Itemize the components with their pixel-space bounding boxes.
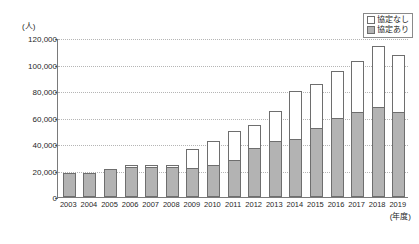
legend-item-none: 協定なし xyxy=(367,15,409,25)
legend-swatch-with-icon xyxy=(367,26,375,34)
plot-area xyxy=(57,39,408,198)
x-axis-tick-label: 2019 xyxy=(388,200,409,209)
bar-stack xyxy=(228,131,241,197)
bar-stack xyxy=(207,141,220,197)
bar-stack xyxy=(310,84,323,197)
bar-column xyxy=(121,38,142,197)
chart-title xyxy=(0,0,419,3)
bar-column xyxy=(286,38,307,197)
bar-stack xyxy=(63,173,76,197)
x-axis-tick-label: 2010 xyxy=(202,200,223,209)
bar-segment-with xyxy=(145,167,158,197)
bar-segment-none xyxy=(248,125,261,148)
y-axis-tick-label: 120,000 xyxy=(0,35,57,44)
bar-segment-with xyxy=(125,167,138,197)
bar-stack xyxy=(83,173,96,197)
bar-segment-with xyxy=(207,165,220,197)
x-axis-tick-label: 2018 xyxy=(367,200,388,209)
bar-segment-with xyxy=(372,107,385,197)
bar-segment-none xyxy=(392,55,405,112)
x-axis-tick-label: 2005 xyxy=(99,200,120,209)
bar-segment-with xyxy=(289,139,302,197)
bar-column xyxy=(224,38,245,197)
bar-stack xyxy=(351,61,364,197)
legend-label-with: 協定あり xyxy=(377,25,409,35)
bar-segment-with xyxy=(310,128,323,197)
chart-legend: 協定なし 協定あり xyxy=(363,13,413,38)
bar-column xyxy=(100,38,121,197)
bar-segment-with xyxy=(392,112,405,197)
bar-column xyxy=(389,38,410,197)
bar-stack xyxy=(331,71,344,197)
bar-stack xyxy=(372,46,385,197)
bar-segment-with xyxy=(63,173,76,197)
bar-segment-none xyxy=(207,141,220,165)
bar-column xyxy=(80,38,101,197)
bar-segment-none xyxy=(372,46,385,107)
x-axis-tick-label: 2007 xyxy=(140,200,161,209)
legend-swatch-none-icon xyxy=(367,16,375,24)
bar-column xyxy=(183,38,204,197)
bar-stack xyxy=(104,169,117,197)
bar-stack xyxy=(166,165,179,197)
bar-column xyxy=(141,38,162,197)
x-axis-tick-label: 2009 xyxy=(182,200,203,209)
bar-segment-with xyxy=(228,160,241,197)
x-axis-tick-label: 2011 xyxy=(223,200,244,209)
bar-segment-with xyxy=(104,169,117,197)
y-axis-unit-label: (人) xyxy=(22,20,35,31)
bar-segment-none xyxy=(186,149,199,168)
bar-segment-with xyxy=(186,168,199,197)
x-axis-tick-label: 2006 xyxy=(120,200,141,209)
y-axis-tick-label: 40,000 xyxy=(0,141,57,150)
x-axis-tick-label: 2004 xyxy=(79,200,100,209)
y-axis-tick-label: 100,000 xyxy=(0,61,57,70)
bar-segment-with xyxy=(351,112,364,197)
bar-segment-with xyxy=(248,148,261,197)
y-axis-tick-label: 80,000 xyxy=(0,88,57,97)
bar-column xyxy=(327,38,348,197)
bar-stack xyxy=(145,165,158,197)
bar-column xyxy=(347,38,368,197)
bars-group xyxy=(59,38,409,197)
bar-segment-none xyxy=(228,131,241,160)
bar-segment-with xyxy=(83,173,96,197)
x-axis-tick-label: 2017 xyxy=(346,200,367,209)
bar-column xyxy=(265,38,286,197)
bar-column xyxy=(59,38,80,197)
bar-stack xyxy=(269,111,282,197)
legend-label-none: 協定なし xyxy=(377,15,409,25)
bar-stack xyxy=(186,149,199,197)
bar-column xyxy=(306,38,327,197)
bar-stack xyxy=(125,165,138,197)
x-axis-tick-label: 2008 xyxy=(161,200,182,209)
x-axis-tick-label: 2012 xyxy=(243,200,264,209)
x-axis-tick-labels: 2003200420052006200720082009201020112012… xyxy=(58,200,408,209)
x-axis-tick-label: 2016 xyxy=(326,200,347,209)
bar-segment-with xyxy=(331,118,344,198)
bar-stack xyxy=(289,91,302,197)
y-axis-tick-label: 20,000 xyxy=(0,167,57,176)
bar-column xyxy=(244,38,265,197)
bar-column xyxy=(368,38,389,197)
x-axis-tick-label: 2014 xyxy=(285,200,306,209)
x-axis-tick-label: 2003 xyxy=(58,200,79,209)
x-axis-unit-label: (年度) xyxy=(390,210,411,221)
bar-column xyxy=(203,38,224,197)
y-axis-tick-label: 60,000 xyxy=(0,114,57,123)
bar-segment-none xyxy=(331,71,344,117)
bar-segment-none xyxy=(269,111,282,141)
bar-segment-with xyxy=(269,141,282,197)
bar-column xyxy=(162,38,183,197)
bar-segment-none xyxy=(351,61,364,113)
x-axis-tick-label: 2015 xyxy=(305,200,326,209)
bar-segment-none xyxy=(289,91,302,139)
bar-segment-none xyxy=(310,84,323,128)
bar-segment-with xyxy=(166,167,179,197)
x-axis-tick-label: 2013 xyxy=(264,200,285,209)
bar-stack xyxy=(392,55,405,197)
chart-container: (人) 協定なし 協定あり 120,000100,00080,00060,000… xyxy=(0,0,419,244)
legend-item-with: 協定あり xyxy=(367,25,409,35)
bar-stack xyxy=(248,125,261,197)
y-axis-tick-label: 0 xyxy=(0,194,57,203)
